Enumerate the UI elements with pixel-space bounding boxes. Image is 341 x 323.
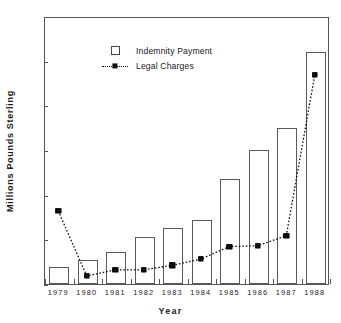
bar — [220, 179, 240, 284]
bar — [192, 220, 212, 284]
x-tick-mark — [45, 279, 46, 284]
bar — [277, 128, 297, 284]
bar — [306, 52, 326, 284]
x-tick-mark — [216, 279, 217, 284]
y-tick-mark — [44, 285, 48, 286]
x-tick-label: 1988 — [295, 289, 335, 296]
open-square-icon — [100, 45, 130, 57]
x-tick-mark — [188, 279, 189, 284]
bar — [78, 260, 98, 284]
bar — [163, 228, 183, 284]
x-tick-mark — [302, 279, 303, 284]
legend-label-legal-charges: Legal Charges — [136, 61, 194, 71]
x-tick-mark — [245, 279, 246, 284]
y-axis-title-wrap: Millions Pounds Sterling — [6, 17, 20, 285]
legend-item-indemnity-payment: Indemnity Payment — [100, 44, 212, 57]
x-tick-mark — [273, 279, 274, 284]
x-tick-mark — [159, 279, 160, 284]
bar — [249, 150, 269, 284]
x-axis-title: Year — [0, 306, 341, 316]
legend-label-indemnity-payment: Indemnity Payment — [136, 46, 212, 56]
chart-legend: Indemnity Payment Legal Charges — [100, 44, 212, 74]
x-tick-mark — [330, 279, 331, 284]
x-tick-mark — [74, 279, 75, 284]
bar — [106, 252, 126, 284]
x-tick-mark — [131, 279, 132, 284]
chart-figure: Millions Pounds Sterling 051015202530 19… — [0, 0, 341, 323]
x-tick-mark — [102, 279, 103, 284]
y-axis-title: Millions Pounds Sterling — [5, 17, 19, 285]
bar — [49, 267, 69, 284]
legend-item-legal-charges: Legal Charges — [100, 59, 212, 72]
bar — [135, 237, 155, 284]
dotted-line-square-icon — [100, 60, 130, 72]
